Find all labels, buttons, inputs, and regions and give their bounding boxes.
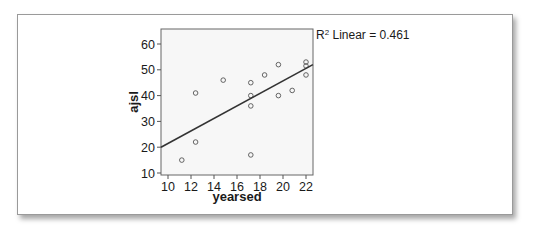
y-tick-label: 10 <box>141 167 155 181</box>
y-tick-label: 60 <box>141 38 155 52</box>
x-tick-label: 12 <box>184 180 198 194</box>
x-tick-label: 20 <box>276 180 290 194</box>
y-axis: 102030405060 <box>141 38 161 181</box>
x-tick-label: 22 <box>299 180 313 194</box>
y-tick-label: 50 <box>141 63 155 77</box>
x-axis-title: yearsed <box>212 189 261 204</box>
y-axis-title: ajsl <box>126 91 141 113</box>
plot-area <box>161 29 313 175</box>
y-tick-label: 40 <box>141 89 155 103</box>
y-tick-label: 30 <box>141 115 155 129</box>
x-tick-label: 10 <box>161 180 175 194</box>
y-tick-label: 20 <box>141 141 155 155</box>
r-squared-annotation: R2 Linear = 0.461 <box>316 28 410 42</box>
scatter-chart: 102030405060 10121416182022 yearsed ajsl… <box>0 0 534 231</box>
